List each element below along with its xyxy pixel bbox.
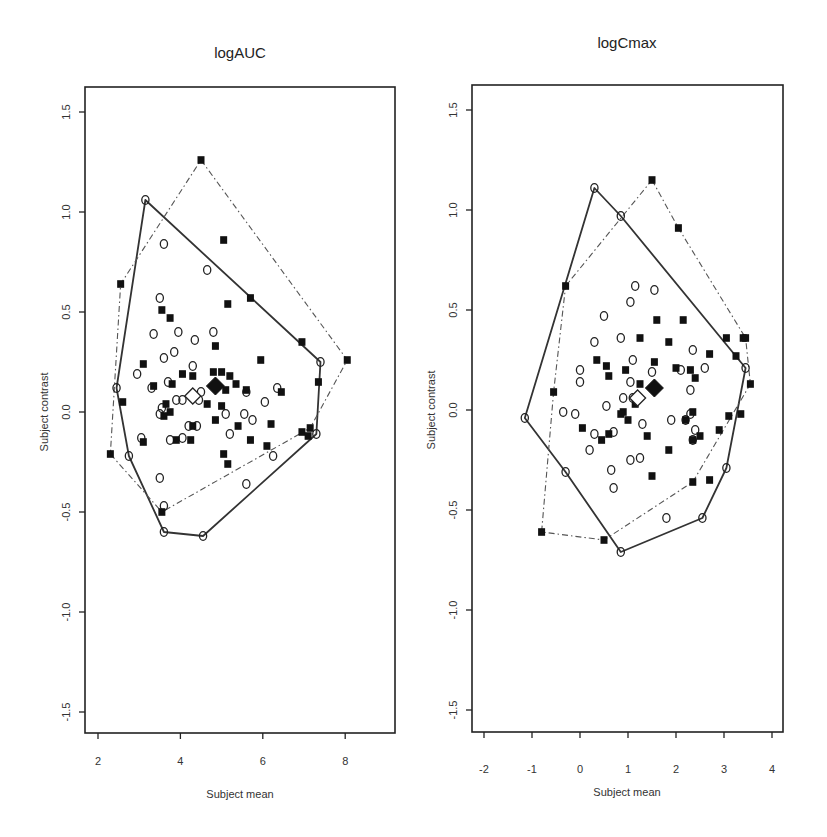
open-circle-point (243, 480, 250, 489)
filled-square-point (617, 410, 624, 418)
filled-square-point (723, 334, 730, 342)
x-axis-label: Subject mean (593, 786, 660, 798)
open-circle-point (627, 456, 634, 465)
y-tick-label: 1.5 (60, 104, 72, 119)
y-tick-label: -1.0 (60, 603, 72, 622)
filled-square-point (119, 398, 126, 406)
filled-squares-hull (110, 160, 347, 512)
x-axis-label: Subject mean (206, 788, 273, 800)
open-circle-point (610, 484, 617, 493)
open-circle-point (591, 338, 598, 347)
filled-square-point (162, 400, 169, 408)
open-circle-point (191, 336, 198, 345)
filled-square-point (682, 416, 689, 424)
filled-square-point (697, 432, 704, 440)
open-circle-point (270, 452, 277, 461)
y-tick-label: -0.5 (447, 501, 459, 520)
figure: logAUC Subject mean Subject contrast 246… (0, 0, 827, 837)
filled-square-point (278, 388, 285, 396)
x-tick-label: 0 (577, 763, 583, 775)
open-circle-point (620, 394, 627, 403)
filled-square-point (675, 224, 682, 232)
x-tick-label: 2 (95, 755, 101, 767)
y-tick-label: 0.5 (447, 302, 459, 317)
open-circle-point (668, 416, 675, 425)
filled-square-point (220, 450, 227, 458)
filled-square-point (187, 436, 194, 444)
filled-square-point (140, 438, 147, 446)
y-axis-label: Subject contrast (38, 373, 50, 452)
open-circle-point (179, 434, 186, 443)
open-circle-point (603, 402, 610, 411)
y-tick-label: -1.0 (447, 601, 459, 620)
filled-square-point (625, 416, 632, 424)
open-circle-point (636, 454, 643, 463)
filled-square-point (263, 442, 270, 450)
filled-square-point (651, 358, 658, 366)
filled-square-point (593, 356, 600, 364)
filled-square-point (268, 420, 275, 428)
filled-square-point (601, 536, 608, 544)
y-tick-label: 1.0 (447, 202, 459, 217)
filled-square-point (673, 364, 680, 372)
filled-square-point (725, 412, 732, 420)
filled-square-point (212, 342, 219, 350)
filled-square-point (315, 378, 322, 386)
filled-square-point (235, 422, 242, 430)
plot-area: -2-1012341.51.00.50.0-0.5-1.0-1.5 (447, 85, 783, 775)
open-diamond-mean (185, 388, 201, 404)
filled-diamond-mean (645, 379, 663, 397)
open-circle-point (167, 436, 174, 445)
filled-square-point (167, 408, 174, 416)
filled-square-point (649, 176, 656, 184)
filled-square-point (665, 338, 672, 346)
filled-square-point (665, 446, 672, 454)
open-circle-point (591, 430, 598, 439)
filled-square-point (212, 416, 219, 424)
open-circle-point (226, 430, 233, 439)
open-circle-point (627, 378, 634, 387)
open-circle-point (586, 446, 593, 455)
y-tick-label: 0.5 (60, 304, 72, 319)
open-circle-point (156, 474, 163, 483)
panel-logAUC: logAUC Subject mean Subject contrast 246… (38, 44, 395, 800)
x-tick-label: 8 (342, 755, 348, 767)
filled-square-point (224, 460, 231, 468)
filled-square-point (167, 314, 174, 322)
filled-square-point (742, 334, 749, 342)
plot-area: 24681.51.00.50.0-0.5-1.0-1.5 (60, 87, 395, 767)
filled-square-point (169, 380, 176, 388)
open-circle-point (249, 416, 256, 425)
open-circle-point (572, 410, 579, 419)
open-circles-hull (525, 188, 746, 552)
open-circle-point (560, 408, 567, 417)
open-circle-point (134, 370, 141, 379)
open-circle-point (639, 420, 646, 429)
filled-square-point (257, 356, 264, 364)
filled-square-point (117, 280, 124, 288)
open-circle-point (222, 410, 229, 419)
open-circle-point (608, 466, 615, 475)
open-circle-point (576, 378, 583, 387)
open-circle-point (241, 410, 248, 419)
filled-square-point (706, 350, 713, 358)
x-tick-label: -1 (527, 763, 537, 775)
filled-square-point (550, 388, 557, 396)
filled-square-point (224, 300, 231, 308)
filled-square-point (687, 366, 694, 374)
filled-square-point (689, 478, 696, 486)
open-circle-point (663, 514, 670, 523)
filled-square-point (579, 424, 586, 432)
filled-square-point (173, 436, 180, 444)
y-axis-label: Subject contrast (425, 371, 437, 450)
filled-square-point (158, 306, 165, 314)
panel-title: logAUC (214, 44, 266, 61)
filled-square-point (622, 366, 629, 374)
filled-square-point (107, 450, 114, 458)
filled-square-point (737, 410, 744, 418)
open-circle-point (175, 328, 182, 337)
filled-diamond-mean (206, 377, 224, 395)
open-circle-point (600, 312, 607, 321)
filled-square-point (204, 400, 211, 408)
filled-square-point (305, 432, 312, 440)
